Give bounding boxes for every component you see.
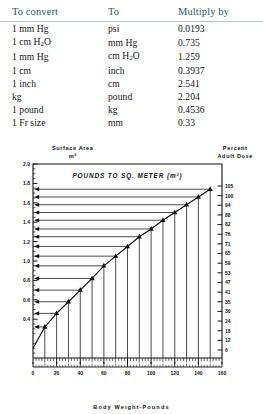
x-axis-tick-label: 140 (194, 370, 203, 376)
y2-axis-tick-label: 24 (225, 318, 231, 324)
table-row: 1 inch cm 2.541 (0, 77, 263, 90)
conversion-table: To convert To Multiply by 1 mm Hg psi 0.… (0, 0, 263, 129)
x-axis-title: Body Weight-Pounds (0, 404, 263, 412)
cell-from: 1 cm H2O (0, 35, 108, 49)
cell-from: kg (0, 90, 108, 103)
cell-from-text: 1 cm H (12, 36, 41, 47)
x-axis-tick-label: 40 (77, 370, 83, 376)
cell-factor: 2.204 (178, 90, 263, 103)
cell-from-tail: O (44, 36, 51, 47)
cell-from: 1 mm Hg (0, 22, 108, 36)
column-header-multiply-by: Multiply by (178, 0, 263, 22)
cell-from: 1 pound (0, 103, 108, 116)
y2-axis-tick-label: 76 (225, 231, 231, 237)
y-axis-tick-label: 1.6 (23, 200, 30, 206)
y-axis-tick-label: 1.0 (23, 258, 30, 264)
y2-axis-tick-label: 6 (225, 347, 228, 353)
x-axis-tick-label: 60 (101, 370, 107, 376)
y2-axis-tick-label: 100 (225, 193, 234, 199)
table-row: 1 cm H2O mm Hg 0.735 (0, 35, 263, 49)
y2-axis-tick-label: 47 (225, 279, 231, 285)
y-axis-tick-label: 0.6 (23, 297, 30, 303)
x-axis-tick-label: 100 (147, 370, 156, 376)
table-row: 1 cm inch 0.3937 (0, 64, 263, 77)
y2-axis-tick-label: 41 (225, 289, 231, 295)
cell-to: cm H2O (108, 49, 178, 63)
y-axis-tick-label: 2.0 (23, 161, 30, 167)
arrow-head (34, 264, 39, 268)
cell-from: 1 mm Hg (0, 49, 108, 63)
arrow-head (34, 195, 39, 199)
y-axis-tick-label: 0.4 (23, 316, 30, 322)
y-axis-tick-label: 1.2 (23, 239, 30, 245)
cell-factor: 0.33 (178, 116, 263, 129)
cell-factor: 0.735 (178, 35, 263, 49)
arrow-head (34, 210, 39, 214)
cell-from: 1 inch (0, 77, 108, 90)
y2-axis-tick-label: 35 (225, 299, 231, 305)
data-point-marker (101, 263, 106, 268)
y2-axis-tick-label: 105 (225, 183, 234, 189)
y2-axis-tick-label: 65 (225, 250, 231, 256)
x-axis-tick-label: 120 (171, 370, 180, 376)
cell-to: psi (108, 22, 178, 36)
y2-axis-tick-label: 59 (225, 260, 231, 266)
table-row: 1 mm Hg psi 0.0193 (0, 22, 263, 36)
y2-axis-tick-label: 94 (225, 202, 231, 208)
y2-axis-tick-label: 53 (225, 270, 231, 276)
table-body: 1 mm Hg psi 0.0193 1 cm H2O mm Hg 0.735 … (0, 22, 263, 130)
cell-to: inch (108, 64, 178, 77)
cell-factor: 2.541 (178, 77, 263, 90)
table-row: 1 Fr size mm 0.33 (0, 116, 263, 129)
y2-axis-tick-label: 88 (225, 212, 231, 218)
cell-to: mm (108, 116, 178, 129)
x-axis-tick-label: 160 (218, 370, 227, 376)
data-point-marker (208, 186, 213, 191)
arrow-head (34, 187, 39, 191)
chart-inner-title: POUNDS TO SQ. METER (m²) (72, 172, 182, 180)
x-axis-tick-label: 80 (125, 370, 131, 376)
y-axis-tick-label: 0.8 (23, 277, 30, 283)
arrow-head (34, 227, 39, 231)
cell-factor: 1.259 (178, 49, 263, 63)
column-header-to: To (108, 0, 178, 22)
y2-axis-tick-label: 18 (225, 328, 231, 334)
x-axis-tick-label: 20 (54, 370, 60, 376)
cell-from: 1 cm (0, 64, 108, 77)
table-row: 1 mm Hg cm H2O 1.259 (0, 49, 263, 63)
arrow-head (34, 311, 39, 315)
cell-from: 1 Fr size (0, 116, 108, 129)
y-axis-tick-label: 1.4 (23, 219, 30, 225)
column-header-to-convert: To convert (0, 0, 108, 22)
cell-to: cm (108, 77, 178, 90)
cell-factor: 0.3937 (178, 64, 263, 77)
table-row: 1 pound kg 0.4536 (0, 103, 263, 116)
cell-to-tail: O (133, 50, 140, 61)
arrow-head (34, 288, 39, 292)
y-axis-tick-label: 1.8 (23, 180, 30, 186)
arrow-head (34, 235, 39, 239)
cell-factor: 0.4536 (178, 103, 263, 116)
y2-axis-tick-label: 82 (225, 221, 231, 227)
cell-to: mm Hg (108, 35, 178, 49)
y2-axis-tick-label: 30 (225, 308, 231, 314)
table-row: kg pound 2.204 (0, 90, 263, 103)
y2-axis-tick-label: 71 (225, 241, 231, 247)
nomogram-figure: Surface Area m² Percent Adult Dose POUND… (0, 140, 263, 414)
cell-to-text: cm H (108, 50, 129, 61)
cell-factor: 0.0193 (178, 22, 263, 36)
cell-to: kg (108, 103, 178, 116)
data-point-marker (125, 243, 130, 248)
y2-axis-tick-label: 12 (225, 337, 231, 343)
arrow-head (34, 244, 39, 248)
arrow-head (34, 254, 39, 258)
data-curve (33, 189, 210, 348)
table-header-row: To convert To Multiply by (0, 0, 263, 22)
cell-to: pound (108, 90, 178, 103)
arrow-head (34, 325, 39, 329)
data-point-marker (113, 253, 118, 258)
x-axis-tick-label: 0 (32, 370, 35, 376)
chart-canvas: POUNDS TO SQ. METER (m²)0.40.60.81.01.21… (0, 140, 263, 414)
